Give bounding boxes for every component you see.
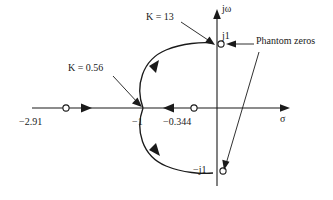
- locus-branch-upper: [140, 43, 213, 108]
- leader-arrowhead-k13-icon: [205, 37, 215, 46]
- phantom-zeros-annotation: Phantom zeros: [256, 36, 315, 46]
- axis-tick-label-minus-1: −1: [132, 117, 143, 127]
- root-locus-figure: [0, 0, 333, 200]
- real-axis-direction-arrow-right-icon: [163, 104, 174, 113]
- axis-tick-label-j1: j1: [222, 31, 230, 41]
- axis-tick-label-minus-j1: −j1: [193, 165, 206, 175]
- gain-label-k13: K = 13: [146, 12, 174, 22]
- phantom-zero-marker-minus-j1: [220, 168, 226, 174]
- zero-marker-minus-0-344: [191, 105, 197, 111]
- real-axis-direction-arrow-left-icon: [81, 104, 92, 113]
- imaginary-axis-arrowhead-icon: [213, 9, 221, 19]
- leader-line-k056: [113, 76, 138, 103]
- axis-tick-label-minus-2-91: −2.91: [19, 117, 42, 127]
- leader-line-k13: [181, 22, 211, 42]
- real-axis-label: σ: [280, 114, 285, 124]
- imaginary-axis-label: jω: [222, 4, 231, 14]
- phantom-zero-marker-j1: [218, 41, 224, 47]
- locus-direction-arrow-lower-icon: [149, 143, 160, 156]
- locus-direction-arrow-upper-icon: [149, 60, 159, 73]
- real-axis-arrowhead-icon: [280, 104, 290, 112]
- zero-marker-minus-2-91: [63, 105, 69, 111]
- axis-tick-label-minus-0-344: −0.344: [163, 117, 191, 127]
- leader-arrowhead-phantom-j1-icon: [226, 40, 236, 47]
- gain-label-k056: K = 0.56: [68, 63, 103, 73]
